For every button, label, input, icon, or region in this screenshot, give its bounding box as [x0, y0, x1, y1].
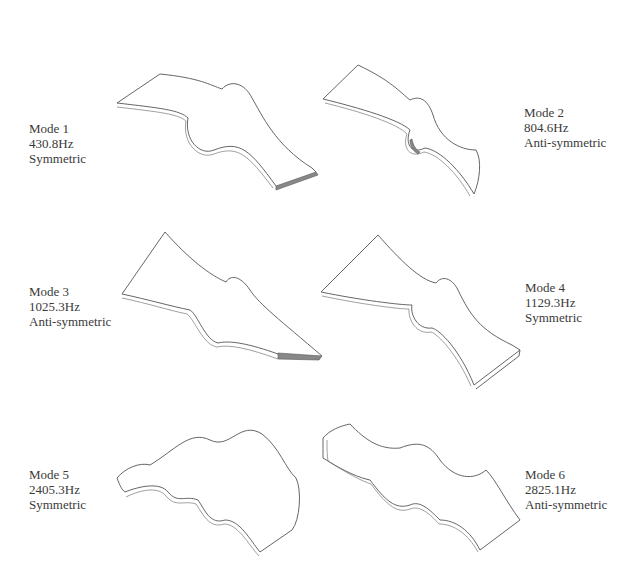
- mode-6-frequency: 2825.1Hz: [525, 482, 607, 497]
- mode-3-name: Mode 3: [29, 284, 111, 299]
- mode-5-type: Symmetric: [29, 497, 86, 512]
- mode-4-name: Mode 4: [525, 280, 582, 295]
- mode-4-label: Mode 4 1129.3Hz Symmetric: [525, 280, 582, 325]
- mode-3-label: Mode 3 1025.3Hz Anti-symmetric: [29, 284, 111, 329]
- mode-2-name: Mode 2: [524, 105, 606, 120]
- mode-5-frequency: 2405.3Hz: [29, 482, 86, 497]
- mode-2-frequency: 804.6Hz: [524, 120, 606, 135]
- mode-5-name: Mode 5: [29, 467, 86, 482]
- mode-1-shape: [117, 74, 318, 190]
- mode-1-frequency: 430.8Hz: [29, 136, 86, 151]
- mode-6-shape: [323, 424, 520, 552]
- mode-5-label: Mode 5 2405.3Hz Symmetric: [29, 467, 86, 512]
- mode-3-type: Anti-symmetric: [29, 314, 111, 329]
- mode-2-type: Anti-symmetric: [524, 135, 606, 150]
- mode-4-type: Symmetric: [525, 310, 582, 325]
- mode-1-label: Mode 1 430.8Hz Symmetric: [29, 121, 86, 166]
- mode-6-type: Anti-symmetric: [525, 497, 607, 512]
- mode-4-shape: [321, 235, 520, 389]
- mode-6-name: Mode 6: [525, 467, 607, 482]
- mode-2-shape: [323, 65, 483, 196]
- mode-1-type: Symmetric: [29, 151, 86, 166]
- mode-5-shape: [117, 430, 300, 556]
- mode-3-frequency: 1025.3Hz: [29, 299, 111, 314]
- mode-6-label: Mode 6 2825.1Hz Anti-symmetric: [525, 467, 607, 512]
- mode-3-shape: [122, 232, 322, 360]
- mode-1-name: Mode 1: [29, 121, 86, 136]
- mode-4-frequency: 1129.3Hz: [525, 295, 582, 310]
- mode-2-label: Mode 2 804.6Hz Anti-symmetric: [524, 105, 606, 150]
